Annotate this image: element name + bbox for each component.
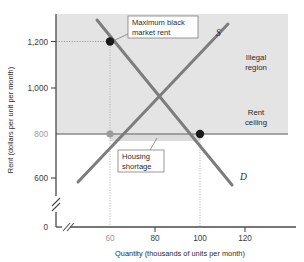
x-tick-label-60: 60 — [105, 234, 115, 243]
black-market-callout-line1: Maximum black — [132, 18, 185, 27]
x-tick-label-120: 120 — [238, 234, 252, 243]
quantity-demanded-point-marker — [196, 130, 204, 138]
y-tick-label-0: 0 — [43, 223, 48, 232]
y-tick-label-800: 800 — [34, 130, 48, 139]
quantity-supplied-point-marker — [106, 130, 113, 137]
chart-canvas: 1,200 1,000 800 600 0 60 80 100 120 Rent… — [0, 0, 304, 262]
y-tick-label-1200: 1,200 — [28, 38, 49, 47]
y-tick-label-600: 600 — [34, 174, 48, 183]
y-axis-break-icon — [52, 198, 60, 211]
demand-curve-label: D — [239, 172, 247, 182]
x-axis-title: Quantity (thousands of units per month) — [115, 249, 245, 258]
illegal-region-label-line1: Illegal — [246, 53, 267, 62]
housing-shortage-callout-line1: Housing — [122, 152, 150, 161]
y-axis-title: Rent (dollars per unit per month) — [6, 67, 15, 173]
rent-ceiling-label-line1: Rent — [248, 108, 265, 117]
rent-ceiling-label-line2: ceiling — [245, 118, 267, 127]
black-market-callout-line2: market rent — [132, 28, 171, 37]
x-tick-label-100: 100 — [193, 234, 207, 243]
x-tick-label-80: 80 — [150, 234, 160, 243]
rent-ceiling-chart: 1,200 1,000 800 600 0 60 80 100 120 Rent… — [0, 0, 304, 262]
supply-curve-label: S — [216, 28, 221, 38]
black-market-point-marker — [106, 37, 114, 45]
housing-shortage-callout-line2: shortage — [122, 162, 152, 171]
y-tick-label-1000: 1,000 — [28, 84, 49, 93]
illegal-region-label-line2: region — [245, 63, 267, 72]
